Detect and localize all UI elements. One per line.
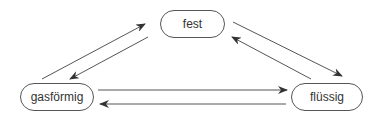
node-label: flüssig <box>310 90 344 104</box>
node-label: gasförmig <box>31 90 84 104</box>
edge-gasfoermig-to-fest <box>42 24 145 79</box>
node-fluessig: flüssig <box>291 83 363 111</box>
node-gasfoermig: gasförmig <box>20 83 94 111</box>
edge-fest-to-fluessig <box>233 22 342 76</box>
node-fest: fest <box>160 10 225 38</box>
state-diagram: fest gasförmig flüssig <box>0 0 379 115</box>
node-label: fest <box>183 17 202 31</box>
edge-fluessig-to-fest <box>232 37 311 79</box>
